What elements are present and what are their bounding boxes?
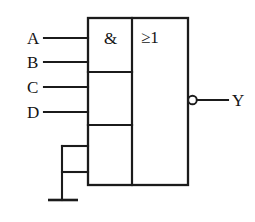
output-inversion-bubble (188, 96, 197, 105)
input-label-c: C (27, 79, 38, 96)
logic-block-outline (88, 18, 188, 185)
input-label-a: A (27, 30, 39, 47)
output-label-y: Y (232, 92, 244, 109)
and-gate-symbol: & (104, 30, 117, 47)
input-label-b: B (27, 54, 38, 71)
input-label-d: D (27, 104, 39, 121)
logic-diagram-canvas: & ≥1 A B C D Y (0, 0, 255, 222)
or-gate-symbol: ≥1 (141, 29, 159, 46)
